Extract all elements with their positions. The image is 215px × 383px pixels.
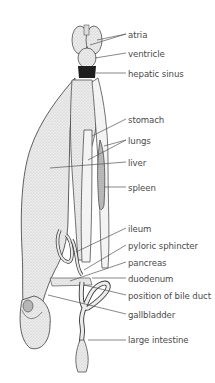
label-lungs: lungs — [128, 136, 151, 146]
label-pancreas: pancreas — [128, 258, 166, 268]
lung-left-shape — [81, 130, 92, 262]
ventricle-shape — [78, 48, 96, 68]
label-liver: liver — [128, 158, 146, 168]
label-stomach: stomach — [128, 115, 164, 125]
label-gallbladder: gallbladder — [128, 310, 175, 320]
label-duodenum: duodenum — [128, 274, 173, 284]
label-large-intestine: large intestine — [128, 335, 188, 345]
label-pyloric-sphincter: pyloric sphincter — [128, 241, 198, 251]
label-ileum: ileum — [128, 224, 151, 234]
label-ventricle: ventricle — [128, 49, 165, 59]
label-spleen: spleen — [128, 183, 156, 193]
label-atria: atria — [128, 30, 147, 40]
duodenum-shape — [81, 282, 108, 345]
label-position-of-bile-duct: position of bile duct — [128, 291, 211, 301]
pancreas-shape — [50, 278, 92, 286]
organ-illustration — [0, 0, 215, 383]
hepatic-sinus-shape — [78, 66, 96, 78]
anatomy-figure: atria ventricle hepatic sinus stomach lu… — [0, 0, 215, 383]
label-hepatic-sinus: hepatic sinus — [128, 69, 184, 79]
large-intestine-shape — [76, 340, 88, 372]
liver-shape — [21, 78, 75, 332]
